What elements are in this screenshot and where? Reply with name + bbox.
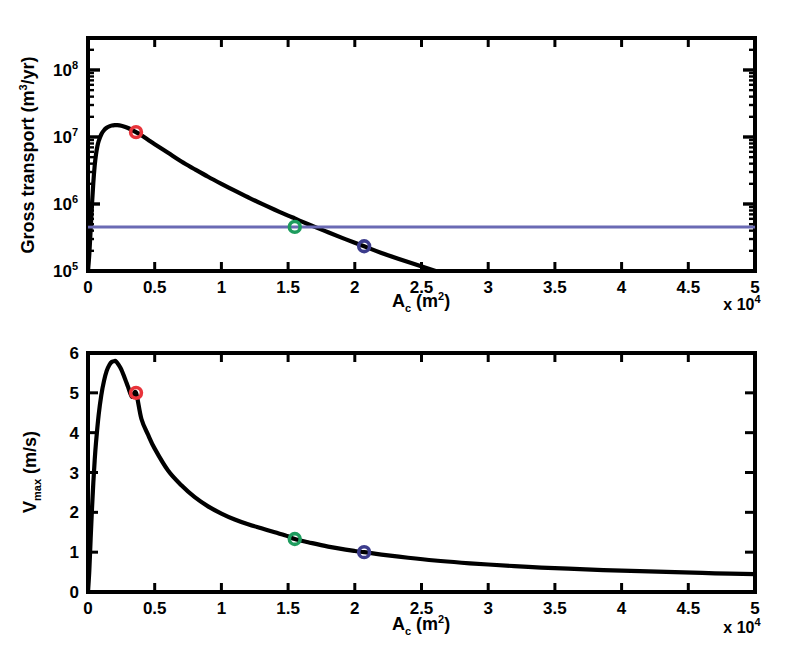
y-tick-label: 105 bbox=[53, 260, 78, 281]
x-tick-label: 0 bbox=[83, 278, 92, 297]
x-tick-label: 3.5 bbox=[543, 599, 567, 618]
y-tick-label: 3 bbox=[70, 464, 79, 483]
y-tick-label: 6 bbox=[70, 344, 79, 363]
x-tick-label: 4 bbox=[617, 599, 627, 618]
x-tick-label: 1.5 bbox=[276, 278, 300, 297]
top-data-layer bbox=[88, 125, 755, 285]
top-xlabel-base: A bbox=[392, 291, 405, 311]
top-tick-layer bbox=[88, 38, 755, 271]
x-tick-label: 4.5 bbox=[676, 278, 700, 297]
top-ylabel-base: Gross transport (m bbox=[18, 91, 38, 254]
figure-container: 00.511.522.533.544.55 105106107108 Gross… bbox=[0, 0, 792, 662]
bottom-ylabel-tail: (m/s) bbox=[20, 431, 40, 479]
y-tick-label: 1 bbox=[70, 543, 79, 562]
x-tick-label: 2 bbox=[350, 278, 359, 297]
y-tick-label: 5 bbox=[70, 384, 79, 403]
bottom-x-multiplier: x 104 bbox=[723, 616, 761, 636]
top-xlabel-unit-open: (m bbox=[411, 291, 438, 311]
bottom-y-axis-title: Vmax (m/s) bbox=[20, 431, 43, 513]
bottom-xlabel-base: A bbox=[392, 614, 405, 634]
svg-text:Gross transport (m3/yr): Gross transport (m3/yr) bbox=[17, 56, 38, 253]
bottom-chart-svg: 00.511.522.533.544.55 0123456 Vmax (m/s)… bbox=[0, 330, 792, 662]
y-tick-label: 107 bbox=[53, 126, 78, 147]
bottom-xlabel-unit-open: (m bbox=[411, 614, 438, 634]
x-tick-label: 4 bbox=[617, 278, 627, 297]
y-tick-label: 106 bbox=[53, 193, 78, 214]
top-x-multiplier-exp: 4 bbox=[755, 293, 762, 305]
top-chart-svg: 00.511.522.533.544.55 105106107108 Gross… bbox=[0, 0, 792, 330]
x-tick-label: 1 bbox=[217, 599, 226, 618]
x-tick-label: 1 bbox=[217, 278, 226, 297]
svg-text:Vmax (m/s): Vmax (m/s) bbox=[20, 431, 43, 513]
top-ylabel-tail: /yr) bbox=[18, 56, 38, 84]
top-x-multiplier: x 104 bbox=[723, 293, 761, 313]
x-tick-label: 1.5 bbox=[276, 599, 300, 618]
bottom-xlabel-unit-close: ) bbox=[444, 614, 450, 634]
y-tick-label: 0 bbox=[70, 583, 79, 602]
bottom-plot-frame bbox=[88, 353, 755, 592]
x-tick-label: 0 bbox=[83, 599, 92, 618]
bottom-marker-layer bbox=[131, 387, 370, 557]
bottom-x-axis-title: Ac (m2) bbox=[392, 613, 450, 637]
bottom-ylabel-base: V bbox=[20, 501, 40, 513]
bottom-x-multiplier-base: x 10 bbox=[723, 619, 754, 636]
top-x-multiplier-base: x 10 bbox=[723, 296, 754, 313]
x-tick-label: 3 bbox=[483, 278, 492, 297]
top-xlabel-unit-close: ) bbox=[444, 291, 450, 311]
top-y-axis-title: Gross transport (m3/yr) bbox=[17, 56, 38, 253]
x-tick-label: 3.5 bbox=[543, 278, 567, 297]
y-tick-label: 2 bbox=[70, 503, 79, 522]
bottom-y-tick-labels: 0123456 bbox=[70, 344, 80, 602]
x-tick-label: 0.5 bbox=[143, 278, 167, 297]
y-tick-label: 4 bbox=[70, 424, 80, 443]
y-tick-label: 108 bbox=[53, 59, 78, 80]
top-plot-frame bbox=[88, 38, 755, 271]
bottom-tick-layer bbox=[88, 353, 755, 592]
x-tick-label: 0.5 bbox=[143, 599, 167, 618]
top-x-axis-title: Ac (m2) bbox=[392, 290, 450, 314]
x-tick-label: 3 bbox=[483, 599, 492, 618]
x-tick-label: 4.5 bbox=[676, 599, 700, 618]
top-y-tick-labels: 105106107108 bbox=[53, 59, 78, 281]
bottom-data-layer bbox=[88, 361, 755, 592]
bottom-panel-vmax: 00.511.522.533.544.55 0123456 Vmax (m/s)… bbox=[0, 330, 792, 662]
x-tick-label: 2 bbox=[350, 599, 359, 618]
bottom-ylabel-sub: max bbox=[31, 478, 43, 501]
top-panel-gross-transport: 00.511.522.533.544.55 105106107108 Gross… bbox=[0, 0, 792, 330]
bottom-x-multiplier-exp: 4 bbox=[755, 616, 762, 628]
